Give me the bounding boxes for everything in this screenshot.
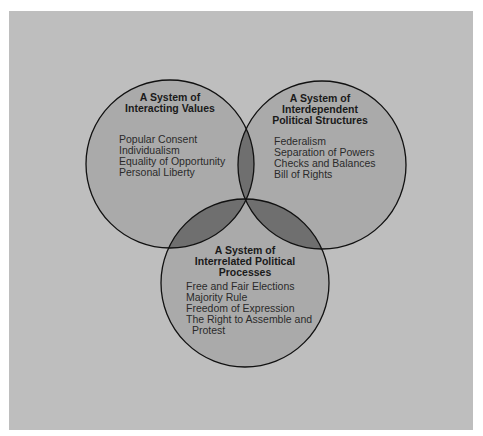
values-items: Popular Consent Individualism Equality o… <box>119 134 225 178</box>
list-item: Personal Liberty <box>119 167 225 178</box>
processes-title: A System of Interrelated Political Proce… <box>190 245 300 278</box>
structures-title: A System of Interdependent Political Str… <box>264 93 376 126</box>
list-item: Protest <box>186 325 312 336</box>
venn-diagram <box>0 0 483 436</box>
list-item: Bill of Rights <box>274 169 376 180</box>
structures-items: Federalism Separation of Powers Checks a… <box>274 136 376 180</box>
values-title: A System of Interacting Values <box>120 92 220 114</box>
processes-items: Free and Fair Elections Majority Rule Fr… <box>186 281 312 336</box>
